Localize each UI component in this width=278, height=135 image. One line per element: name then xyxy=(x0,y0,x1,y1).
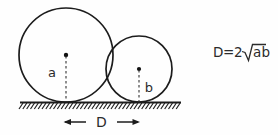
arrowhead-left xyxy=(64,119,72,125)
geometry-canvas: a b D D = 2 ab xyxy=(0,0,278,135)
arrowhead-right xyxy=(133,119,141,125)
hatch-tick xyxy=(157,103,161,109)
hatch-tick xyxy=(42,103,46,109)
formula: D = 2 ab xyxy=(213,44,270,61)
hatch-tick xyxy=(142,103,146,109)
hatch-tick xyxy=(111,103,115,109)
formula-radicand: ab xyxy=(253,44,270,60)
hatch-tick xyxy=(54,103,58,109)
hatch-tick xyxy=(130,103,134,109)
hatch-tick xyxy=(172,103,176,109)
formula-coefficient: 2 xyxy=(234,44,243,60)
hatch-tick xyxy=(169,103,173,109)
hatch-tick xyxy=(84,103,88,109)
hatch-tick xyxy=(92,103,96,109)
hatch-tick xyxy=(165,103,169,109)
geometry-figure: a b D D = 2 ab xyxy=(0,0,278,135)
large-circle-radius-label: a xyxy=(48,65,56,80)
hatch-tick xyxy=(69,103,73,109)
hatch-tick xyxy=(161,103,165,109)
hatch-tick xyxy=(96,103,100,109)
hatch-tick xyxy=(27,103,31,109)
distance-dimension: D xyxy=(64,114,141,130)
formula-equals: = xyxy=(223,44,235,60)
hatch-tick xyxy=(126,103,130,109)
ground-hatching xyxy=(19,103,180,109)
hatch-tick xyxy=(153,103,157,109)
hatch-tick xyxy=(38,103,42,109)
hatch-tick xyxy=(57,103,61,109)
hatch-tick xyxy=(34,103,38,109)
hatch-tick xyxy=(100,103,104,109)
hatch-tick xyxy=(107,103,111,109)
hatch-tick xyxy=(115,103,119,109)
hatch-tick xyxy=(146,103,150,109)
hatch-tick xyxy=(61,103,65,109)
hatch-tick xyxy=(103,103,107,109)
hatch-tick xyxy=(77,103,81,109)
hatch-tick xyxy=(176,103,180,109)
hatch-tick xyxy=(23,103,27,109)
hatch-tick xyxy=(134,103,138,109)
hatch-tick xyxy=(46,103,50,109)
hatch-tick xyxy=(80,103,84,109)
hatch-tick xyxy=(19,103,23,109)
hatch-tick xyxy=(73,103,77,109)
ground xyxy=(19,103,181,110)
hatch-tick xyxy=(88,103,92,109)
hatch-tick xyxy=(138,103,142,109)
hatch-tick xyxy=(123,103,127,109)
distance-label: D xyxy=(96,114,107,130)
hatch-tick xyxy=(65,103,69,109)
hatch-tick xyxy=(119,103,123,109)
hatch-tick xyxy=(50,103,54,109)
small-circle-radius-label: b xyxy=(145,80,153,95)
hatch-tick xyxy=(31,103,35,109)
hatch-tick xyxy=(149,103,153,109)
